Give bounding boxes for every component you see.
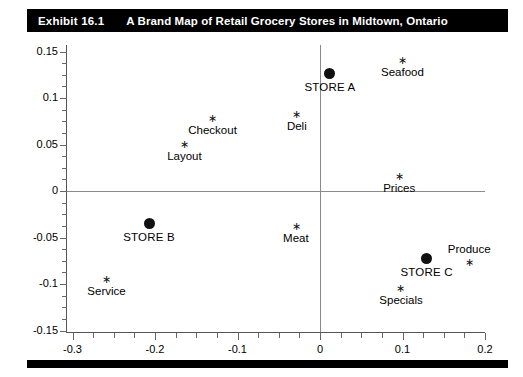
y-axis-tick: [60, 145, 67, 146]
x-axis-tick: [238, 333, 239, 340]
attribute-point-label: Meat: [283, 232, 309, 244]
attribute-data-point: ∗: [395, 172, 404, 181]
y-axis-minor-tick: [62, 110, 67, 111]
y-axis-tick-label: 0.15: [8, 45, 58, 57]
attribute-data-point: ∗: [292, 222, 301, 231]
attribute-point-label: Specials: [379, 294, 422, 306]
y-axis-minor-tick: [62, 307, 67, 308]
y-axis-minor-tick: [62, 121, 67, 122]
attribute-point-label: Service: [87, 285, 125, 297]
x-axis-tick-label: -0.3: [43, 343, 103, 355]
attribute-data-point: ∗: [398, 56, 407, 65]
x-axis-minor-tick: [279, 333, 280, 338]
attribute-data-point: ∗: [396, 284, 405, 293]
x-axis-tick-label: 0.1: [373, 343, 433, 355]
exhibit-figure: Exhibit 16.1 A Brand Map of Retail Groce…: [0, 0, 523, 377]
y-axis-minor-tick: [62, 272, 67, 273]
y-axis-tick-label: 0: [8, 184, 58, 196]
brand-map-scatter-plot: 0.150.10.050-0.05-0.1-0.15-0.3-0.2-0.100…: [0, 0, 523, 377]
store-point-label: STORE A: [304, 81, 355, 93]
attribute-data-point: ∗: [102, 275, 111, 284]
x-axis-minor-tick: [341, 333, 342, 338]
attribute-data-point: ∗: [465, 258, 474, 267]
y-axis-tick: [60, 284, 67, 285]
y-axis-tick-label: -0.1: [8, 277, 58, 289]
x-axis-minor-tick: [464, 333, 465, 338]
attribute-point-label: Layout: [167, 150, 202, 162]
x-axis-tick-label: 0.2: [455, 343, 515, 355]
attribute-point-label: Checkout: [188, 124, 237, 136]
horizontal-zero-line: [66, 191, 485, 192]
y-axis-spine: [66, 45, 67, 333]
store-point-label: STORE B: [123, 231, 175, 243]
x-axis-tick: [403, 333, 404, 340]
y-axis-minor-tick: [62, 63, 67, 64]
x-axis-minor-tick: [299, 333, 300, 338]
attribute-point-label: Prices: [383, 182, 415, 194]
x-axis-minor-tick: [196, 333, 197, 338]
x-axis-tick: [320, 333, 321, 340]
x-axis-minor-tick: [217, 333, 218, 338]
x-axis-minor-tick: [444, 333, 445, 338]
y-axis-minor-tick: [62, 203, 67, 204]
x-axis-tick: [485, 333, 486, 340]
y-axis-tick: [60, 98, 67, 99]
y-axis-minor-tick: [62, 133, 67, 134]
x-axis-minor-tick: [361, 333, 362, 338]
x-axis-minor-tick: [134, 333, 135, 338]
x-axis-minor-tick: [258, 333, 259, 338]
x-axis-minor-tick: [93, 333, 94, 338]
bottom-rule: [27, 360, 508, 368]
y-axis-minor-tick: [62, 168, 67, 169]
x-axis-minor-tick: [114, 333, 115, 338]
attribute-point-label: Produce: [448, 243, 491, 255]
y-axis-minor-tick: [62, 179, 67, 180]
y-axis-tick: [60, 238, 67, 239]
y-axis-tick: [60, 52, 67, 53]
y-axis-tick-label: -0.15: [8, 324, 58, 336]
y-axis-tick-label: -0.05: [8, 231, 58, 243]
y-axis-tick: [60, 191, 67, 192]
attribute-data-point: ∗: [292, 110, 301, 119]
x-axis-minor-tick: [423, 333, 424, 338]
x-axis-minor-tick: [382, 333, 383, 338]
y-axis-minor-tick: [62, 86, 67, 87]
x-axis-tick-label: -0.2: [125, 343, 185, 355]
y-axis-minor-tick: [62, 249, 67, 250]
attribute-data-point: ∗: [180, 140, 189, 149]
x-axis-tick-label: 0: [290, 343, 350, 355]
attribute-point-label: Deli: [287, 120, 307, 132]
y-axis-minor-tick: [62, 296, 67, 297]
y-axis-tick: [60, 331, 67, 332]
y-axis-minor-tick: [62, 261, 67, 262]
store-data-point: [144, 218, 155, 229]
attribute-point-label: Seafood: [381, 66, 424, 78]
y-axis-minor-tick: [62, 319, 67, 320]
store-data-point: [421, 253, 432, 264]
y-axis-minor-tick: [62, 214, 67, 215]
store-data-point: [324, 68, 335, 79]
x-axis-tick: [73, 333, 74, 340]
attribute-data-point: ∗: [208, 114, 217, 123]
y-axis-tick-label: 0.05: [8, 138, 58, 150]
y-axis-tick-label: 0.1: [8, 91, 58, 103]
y-axis-minor-tick: [62, 156, 67, 157]
y-axis-minor-tick: [62, 75, 67, 76]
x-axis-minor-tick: [176, 333, 177, 338]
x-axis-tick: [155, 333, 156, 340]
y-axis-minor-tick: [62, 226, 67, 227]
x-axis-tick-label: -0.1: [208, 343, 268, 355]
store-point-label: STORE C: [400, 266, 452, 278]
